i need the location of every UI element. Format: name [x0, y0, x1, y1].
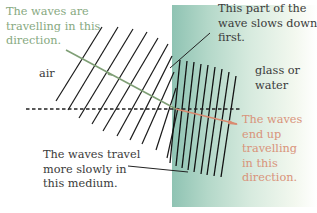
air-label: air — [39, 67, 55, 82]
refracted-arrowhead-icon — [228, 120, 238, 125]
refracted-ray — [176, 109, 237, 124]
medium-wavefronts — [170, 60, 236, 177]
refracted-direction-label: The waves end up travelling in this dire… — [242, 113, 302, 186]
refraction-diagram: The waves are travelling in this directi… — [0, 0, 317, 213]
slows-first-label: This part of the wave slows down first. — [218, 2, 317, 46]
slows-first-pointer-line — [170, 33, 210, 68]
incident-direction-label: The waves are travelling in this directi… — [6, 5, 100, 49]
medium-label: glass or water — [255, 64, 300, 93]
slower-medium-label: The waves travel more slowly in this med… — [43, 148, 140, 192]
